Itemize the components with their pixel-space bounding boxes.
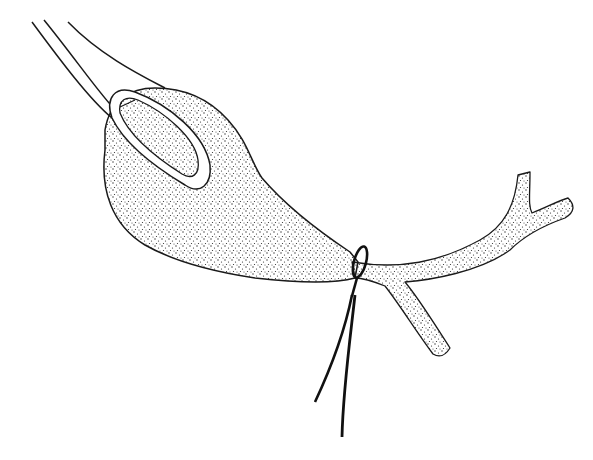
illustration (0, 0, 593, 460)
bile-ducts (352, 172, 573, 356)
